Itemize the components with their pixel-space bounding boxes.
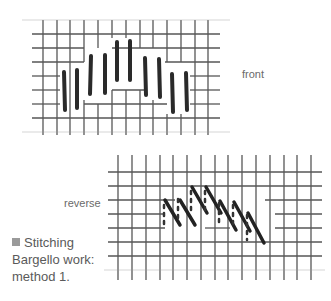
reverse-stitch-diagram [100,145,331,295]
caption-line-1: Stitching [24,235,74,250]
reverse-label: reverse [64,197,101,209]
front-grid-svg [0,0,240,150]
caption-line-3: method 1. [12,268,94,285]
front-label: front [242,68,264,80]
caption-line-2: Bargello work: [12,251,94,268]
front-stitch-diagram [0,0,240,150]
reverse-dashed-stitches [164,191,247,240]
figure-caption: Stitching Bargello work: method 1. [12,234,94,285]
reverse-grid-svg [100,145,331,295]
caption-bullet-icon [12,238,20,246]
